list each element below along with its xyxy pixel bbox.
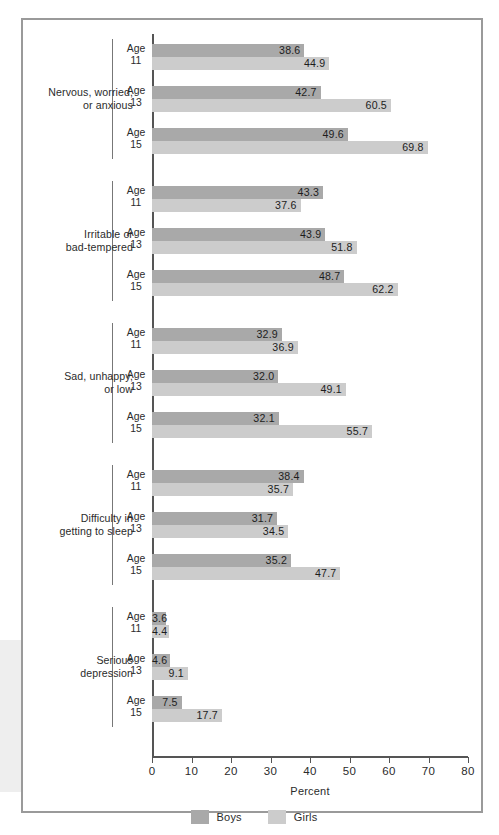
legend-swatch-girls [268,810,286,824]
age-label-line: 15 [123,139,149,151]
bar-value-label: 49.1 [152,383,342,396]
category-label-line: Nervous, worried, [0,86,133,99]
category-label-line: Serious [0,654,133,667]
bar-value-label: 17.7 [152,709,218,722]
plot-area: 01020304050607080 Nervous, worried,or an… [23,20,481,811]
age-label-line: 15 [123,423,149,435]
age-label-line: Age [123,695,149,707]
age-label-line: Age [123,43,149,55]
bar-value-label: 37.6 [152,199,297,212]
x-tick-mark [350,757,351,763]
x-tick-label: 20 [224,765,237,777]
bar-value-label: 34.5 [152,525,284,538]
x-tick-label: 40 [303,765,316,777]
bar-value-label: 42.7 [152,86,317,99]
category-label: Sad, unhappy,or low [0,370,133,396]
bar-value-label: 9.1 [152,667,184,680]
age-label: Age11 [123,327,149,350]
age-label-line: 13 [123,381,149,393]
age-label-line: Age [123,327,149,339]
age-label: Age15 [123,269,149,292]
age-label: Age15 [123,553,149,576]
category-label-line: getting to sleep [0,525,133,538]
bar-value-label: 62.2 [152,283,394,296]
age-label: Age11 [123,43,149,66]
legend-item: Girls [268,810,318,824]
age-label: Age11 [123,185,149,208]
age-label-line: 13 [123,239,149,251]
age-label-line: Age [123,469,149,481]
category-label: Seriousdepression [0,654,133,680]
age-label-line: 11 [123,623,149,635]
bar-value-label: 43.9 [152,228,321,241]
legend-label: Girls [294,811,318,823]
age-label-line: Age [123,611,149,623]
bar-value-label: 32.1 [152,412,275,425]
bar-value-label: 4.6 [152,654,166,667]
bar-value-label: 7.5 [152,696,178,709]
bar-value-label: 31.7 [152,512,273,525]
bar-value-label: 36.9 [152,341,294,354]
legend-label: Boys [217,811,242,823]
age-label: Age15 [123,695,149,718]
age-label-line: Age [123,411,149,423]
bar-value-label: 51.8 [152,241,353,254]
age-label: Age15 [123,127,149,150]
x-tick-mark [192,757,193,763]
x-tick-mark [310,757,311,763]
age-label-line: Age [123,511,149,523]
bar-value-label: 44.9 [152,57,325,70]
category-label: Difficulty ingetting to sleep [0,512,133,538]
bar-value-label: 60.5 [152,99,387,112]
category-label-line: Sad, unhappy, [0,370,133,383]
bar-value-label: 47.7 [152,567,336,580]
x-tick-mark [468,757,469,763]
category-label: Nervous, worried,or anxious [0,86,133,112]
bar-value-label: 32.0 [152,370,274,383]
age-label-line: Age [123,185,149,197]
age-label-line: Age [123,85,149,97]
category-label-line: or low [0,383,133,396]
bar-value-label: 35.2 [152,554,287,567]
bar-value-label: 49.6 [152,128,344,141]
category-label-line: or anxious [0,99,133,112]
age-label-line: Age [123,227,149,239]
chart-legend: BoysGirls [23,810,485,824]
category-label: Irritable orbad-tempered [0,228,133,254]
chart-frame: 01020304050607080 Nervous, worried,or an… [21,18,483,813]
x-tick-mark [429,757,430,763]
bar-value-label: 48.7 [152,270,340,283]
age-label-line: 15 [123,707,149,719]
age-label: Age11 [123,469,149,492]
x-tick-label: 30 [264,765,277,777]
age-label: Age13 [123,653,149,676]
x-tick-label: 60 [382,765,395,777]
age-label-line: 11 [123,481,149,493]
bar-value-label: 3.6 [152,612,162,625]
bar-value-label: 4.4 [152,625,165,638]
age-label-line: 11 [123,339,149,351]
x-tick-mark [152,757,153,763]
bar-value-label: 43.3 [152,186,319,199]
age-label-line: Age [123,127,149,139]
category-label-line: Difficulty in [0,512,133,525]
age-label-line: 13 [123,665,149,677]
x-tick-mark [231,757,232,763]
bar-value-label: 38.6 [152,44,300,57]
age-label-line: Age [123,553,149,565]
bar-value-label: 38.4 [152,470,300,483]
category-label-line: Irritable or [0,228,133,241]
legend-swatch-boys [191,810,209,824]
legend-item: Boys [191,810,242,824]
age-label: Age13 [123,511,149,534]
age-label-line: 11 [123,55,149,67]
x-axis-title: Percent [152,785,468,797]
x-tick-label: 10 [185,765,198,777]
x-tick-mark [271,757,272,763]
x-tick-label: 50 [343,765,356,777]
bar-value-label: 35.7 [152,483,289,496]
x-tick-label: 80 [461,765,474,777]
x-tick-label: 0 [149,765,156,777]
bar-value-label: 32.9 [152,328,278,341]
age-label-line: Age [123,269,149,281]
